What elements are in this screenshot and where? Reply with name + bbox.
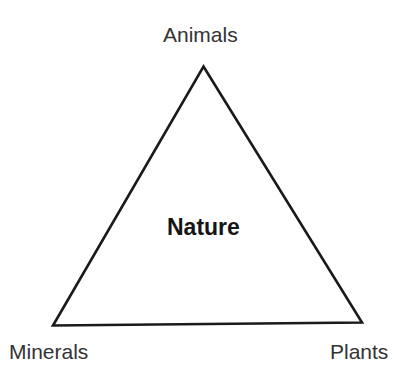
vertex-label-plants: Plants (330, 341, 388, 362)
vertex-label-animals: Animals (163, 24, 238, 45)
triangle-outline (53, 67, 362, 326)
triangle-shape (0, 0, 416, 378)
vertex-label-minerals: Minerals (9, 341, 88, 362)
triangle-diagram: Animals Minerals Plants Nature (0, 0, 416, 378)
center-label-nature: Nature (167, 216, 240, 239)
